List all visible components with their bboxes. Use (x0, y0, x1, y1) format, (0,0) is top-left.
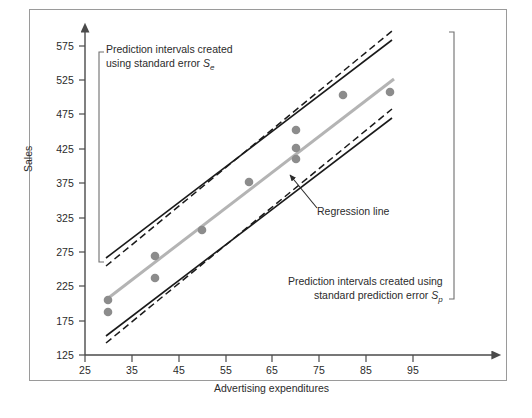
annotation-se-line2: using standard error Se (106, 57, 233, 75)
data-point (292, 126, 301, 135)
annotation-regression-line: Regression line (317, 205, 389, 219)
chart-canvas (0, 0, 532, 418)
y-tick-label: 475 (38, 108, 74, 120)
x-tick-label: 35 (120, 364, 144, 376)
y-tick-label: 375 (38, 177, 74, 189)
data-point (151, 274, 160, 283)
regression-line (107, 79, 394, 299)
x-tick-label: 45 (167, 364, 191, 376)
y-tick-label: 325 (38, 212, 74, 224)
annotation-sp-line2: standard prediction error Sp (288, 289, 443, 307)
annotation-sp-subscript: p (438, 295, 442, 304)
y-tick-label: 425 (38, 143, 74, 155)
data-point (198, 226, 207, 235)
annotation-se-subscript: e (210, 63, 214, 72)
x-tick-label: 55 (214, 364, 238, 376)
y-tick-label: 225 (38, 280, 74, 292)
y-tick-label: 175 (38, 315, 74, 327)
x-tick-label: 65 (260, 364, 284, 376)
annotation-prediction-error: Prediction intervals created using stand… (288, 275, 443, 306)
data-point (292, 144, 301, 153)
data-point (151, 252, 160, 261)
x-tick-label: 95 (401, 364, 425, 376)
annotation-se-line1: Prediction intervals created (106, 43, 233, 57)
annotation-standard-error: Prediction intervals created using stand… (106, 43, 233, 74)
y-tick-label: 125 (38, 349, 74, 361)
y-axis (79, 27, 85, 355)
x-axis (85, 355, 497, 362)
data-point (339, 91, 348, 100)
x-tick-label: 25 (73, 364, 97, 376)
data-point (292, 155, 301, 164)
y-tick-label: 525 (38, 74, 74, 86)
figure-container: 575 525 475 425 375 325 275 225 175 125 … (0, 0, 532, 418)
x-tick-label: 85 (354, 364, 378, 376)
data-point (386, 88, 395, 97)
data-point (104, 308, 113, 317)
data-point (245, 178, 254, 187)
annotation-sp-text: standard prediction error (314, 289, 431, 301)
se-bracket (99, 52, 104, 262)
y-axis-title: Sales (22, 112, 34, 172)
x-axis-title: Advertising expenditures (214, 382, 329, 394)
annotation-se-text: using standard error (106, 57, 203, 69)
y-tick-label: 275 (38, 246, 74, 258)
sp-bracket (449, 32, 454, 299)
y-tick-label: 575 (38, 40, 74, 52)
regression-leader-arrow (290, 175, 317, 208)
annotation-sp-line1: Prediction intervals created using (288, 275, 443, 289)
data-point (104, 296, 113, 305)
x-tick-label: 75 (307, 364, 331, 376)
annotation-se-symbol: S (203, 57, 210, 69)
